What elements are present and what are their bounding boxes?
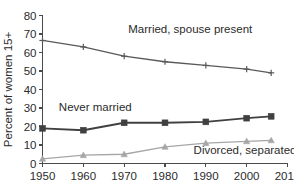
data-point-marker: [162, 59, 168, 65]
data-point-marker: [162, 120, 168, 126]
y-tick-label: 20: [24, 121, 37, 133]
data-point-marker: [244, 115, 250, 121]
y-axis-title: Percent of women 15+: [2, 32, 14, 148]
series-label-1: Never married: [59, 101, 132, 113]
x-tick-label: 1970: [111, 170, 137, 182]
series-layer: [39, 37, 274, 161]
data-point-marker: [80, 44, 86, 50]
line-chart: 01020304050607080 Percent of women 15+ 1…: [0, 0, 294, 185]
x-axis-tick-labels: 1950196019701980199020002010: [30, 170, 294, 182]
data-point-marker: [39, 37, 45, 43]
x-axis-group: 1950196019701980199020002010: [30, 164, 294, 182]
data-point-marker: [121, 120, 127, 126]
x-tick-label: 1950: [30, 170, 56, 182]
y-tick-label: 80: [24, 10, 37, 22]
y-tick-label: 40: [24, 84, 37, 96]
y-tick-label: 0: [30, 158, 36, 170]
series-annotations: Married, spouse presentNever marriedDivo…: [59, 23, 294, 156]
x-tick-label: 1960: [71, 170, 97, 182]
y-tick-label: 30: [24, 102, 37, 114]
data-point-marker: [80, 127, 86, 133]
y-tick-label: 50: [24, 65, 37, 77]
data-point-marker: [121, 53, 127, 59]
series-1: [40, 113, 274, 133]
series-label-0: Married, spouse present: [128, 23, 253, 35]
data-point-marker: [244, 66, 250, 72]
data-point-marker: [203, 62, 209, 68]
x-tick-label: 2010: [275, 170, 294, 182]
series-line: [43, 40, 272, 72]
data-point-marker: [268, 70, 274, 76]
y-axis-group: 01020304050607080 Percent of women 15+: [2, 10, 43, 170]
x-tick-label: 1980: [152, 170, 178, 182]
series-line: [43, 116, 272, 130]
series-label-2: Divorced, separated: [194, 144, 294, 156]
data-point-marker: [268, 113, 274, 119]
x-tick-label: 1990: [193, 170, 219, 182]
data-point-marker: [203, 119, 209, 125]
y-tick-label: 70: [24, 28, 37, 40]
series-0: [39, 37, 274, 76]
y-axis-tick-labels: 01020304050607080: [24, 10, 37, 170]
x-tick-label: 2000: [234, 170, 260, 182]
y-tick-label: 10: [24, 139, 37, 151]
y-tick-label: 60: [24, 47, 37, 59]
chart-container: 01020304050607080 Percent of women 15+ 1…: [0, 0, 294, 185]
data-point-marker: [40, 125, 46, 131]
